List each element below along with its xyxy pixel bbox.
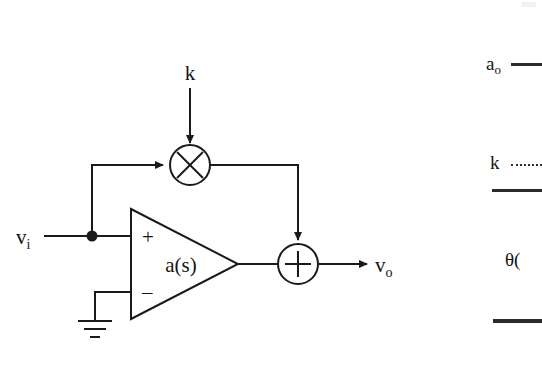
formula-fraction-bar-1 [492, 189, 542, 192]
figure-canvas: k vi vo a(s) + – ao k θ( [0, 0, 542, 389]
output-label-subscript: o [386, 265, 393, 280]
formula-fragment-k: k [490, 152, 500, 174]
formula-rule-a0 [511, 63, 542, 66]
inverting-input-wire [95, 292, 131, 320]
amplifier-label: a(s) [165, 253, 196, 277]
input-label-subscript: i [27, 237, 31, 252]
opamp-plus-label: + [142, 225, 154, 249]
formula-dotted-leader [511, 164, 542, 166]
formula-fraction-bar-2 [493, 319, 542, 323]
opamp-minus-label: – [141, 280, 153, 304]
input-label-main: v [16, 225, 27, 249]
input-label: vi [16, 225, 31, 252]
output-label: vo [375, 253, 393, 280]
block-diagram: k vi vo a(s) + – [0, 0, 542, 389]
gain-label: k [185, 61, 196, 85]
multiplier-output-wire [210, 165, 298, 240]
formula-a-subscript: o [494, 62, 500, 77]
formula-k-term: k [490, 152, 500, 173]
formula-theta-term: θ( [505, 249, 520, 270]
formula-fragment-a0: ao [486, 53, 501, 78]
formula-fragment-theta: θ( [505, 249, 520, 271]
output-label-main: v [375, 253, 386, 277]
